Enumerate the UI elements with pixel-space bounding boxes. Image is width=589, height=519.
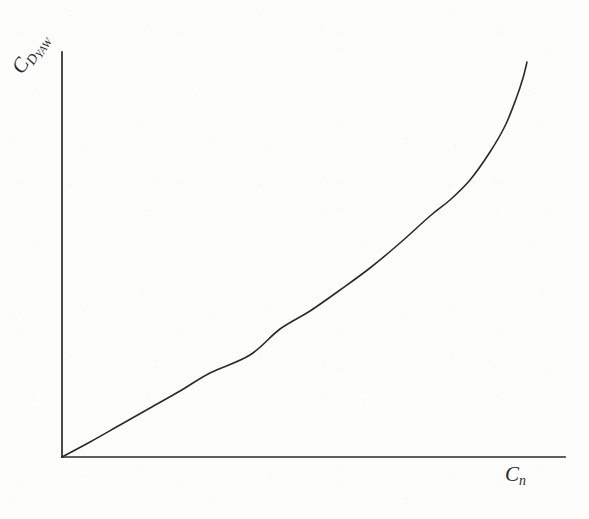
data-curve [62,62,527,457]
figure-container: CDYAW Cn [0,0,589,519]
x-axis-label-base: C [505,462,519,486]
plot-canvas [0,0,589,519]
x-axis-label-sub: n [519,473,526,488]
x-axis-label: Cn [505,464,526,488]
